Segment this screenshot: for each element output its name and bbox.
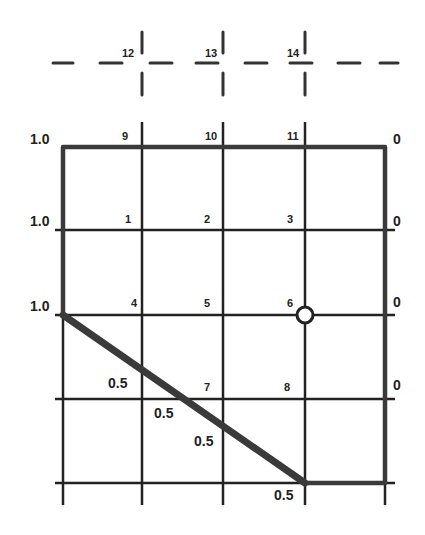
diagonal-boundary-value-4: 0.5 bbox=[274, 487, 294, 503]
diagonal-boundary-value-3: 0.5 bbox=[194, 433, 214, 449]
right-boundary-value-row2: 0 bbox=[393, 213, 401, 229]
diagonal-boundary-value-2: 0.5 bbox=[154, 405, 174, 421]
node-label-8: 8 bbox=[284, 381, 290, 393]
ghost-node-label-13: 13 bbox=[205, 47, 217, 59]
highlighted-node-6-circle bbox=[297, 307, 313, 323]
right-boundary-value-row4: 0 bbox=[393, 377, 401, 393]
node-label-1: 1 bbox=[125, 213, 131, 225]
grid-diagram: 12 13 14 9 10 11 1 2 3 4 5 6 7 8 1.0 1.0… bbox=[0, 0, 425, 535]
node-label-4: 4 bbox=[131, 297, 138, 309]
left-boundary-value-row3: 1.0 bbox=[30, 298, 50, 314]
node-label-7: 7 bbox=[204, 381, 210, 393]
left-boundary-value-row1: 1.0 bbox=[30, 131, 50, 147]
grid-lines bbox=[55, 122, 395, 505]
ghost-node-label-12: 12 bbox=[122, 47, 134, 59]
left-boundary-value-row2: 1.0 bbox=[30, 213, 50, 229]
right-boundary-value-row3: 0 bbox=[393, 294, 401, 310]
node-label-2: 2 bbox=[204, 213, 210, 225]
node-label-10: 10 bbox=[205, 130, 217, 142]
diagonal-boundary-value-1: 0.5 bbox=[108, 375, 128, 391]
node-label-3: 3 bbox=[287, 213, 293, 225]
node-label-5: 5 bbox=[204, 297, 210, 309]
node-label-6: 6 bbox=[287, 297, 293, 309]
node-label-9: 9 bbox=[122, 130, 128, 142]
ghost-node-label-14: 14 bbox=[287, 47, 300, 59]
right-boundary-value-row1: 0 bbox=[393, 131, 401, 147]
node-label-11: 11 bbox=[287, 130, 299, 142]
